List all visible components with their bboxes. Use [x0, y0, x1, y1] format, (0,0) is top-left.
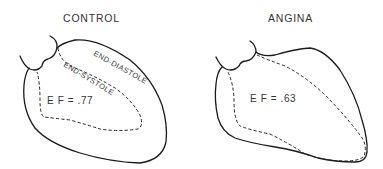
control-end-systole-contour [37, 48, 142, 131]
control-valve-arcs [20, 36, 57, 70]
control-title: CONTROL [63, 12, 120, 24]
angina-end-systole-contour [228, 55, 365, 161]
angina-panel: ANGINA E F = .63 [215, 12, 367, 162]
angina-ef-value: E F = .63 [250, 93, 296, 104]
control-ef-value: E F = .77 [47, 95, 93, 106]
angina-valve-arcs [216, 41, 256, 70]
angina-title: ANGINA [268, 12, 313, 24]
control-end-systole-label: END-SYSTOLE [62, 60, 116, 97]
control-panel: CONTROL END-DIASTOLE END-SYSTOLE E F = .… [20, 12, 167, 163]
ventriculogram-figure: CONTROL END-DIASTOLE END-SYSTOLE E F = .… [0, 0, 383, 169]
